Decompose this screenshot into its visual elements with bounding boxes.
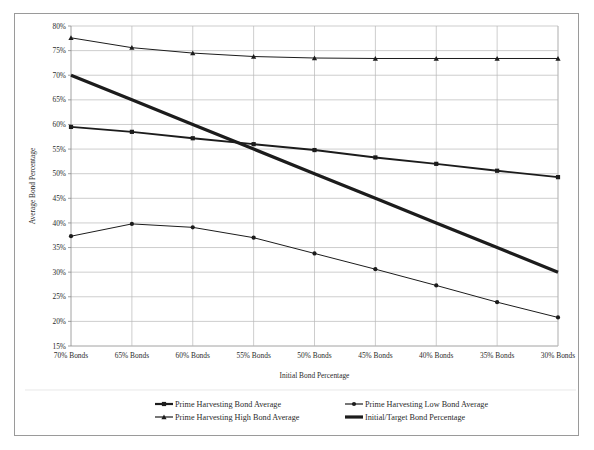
y-axis-tick-label: 20% xyxy=(52,317,66,326)
x-axis-tick-label: 55% Bonds xyxy=(236,351,270,360)
x-axis-tick-label: 60% Bonds xyxy=(176,351,210,360)
data-point-marker xyxy=(191,136,195,140)
legend-label: Initial/Target Bond Percentage xyxy=(365,413,466,422)
x-axis-tick-label: 70% Bonds xyxy=(54,351,88,360)
y-axis-tick-label: 65% xyxy=(52,95,66,104)
data-point-marker xyxy=(191,225,195,229)
legend-marker-icon xyxy=(352,402,356,406)
y-axis-title: Average Bond Percentage xyxy=(28,147,37,224)
data-point-marker xyxy=(69,125,73,129)
y-axis-tick-label: 25% xyxy=(52,292,66,301)
data-point-marker xyxy=(556,315,560,319)
line-chart: 80%75%70%65%60%55%50%45%40%35%30%25%20%1… xyxy=(15,14,580,437)
data-point-marker xyxy=(69,234,73,238)
data-point-marker xyxy=(373,267,377,271)
y-axis-tick-label: 80% xyxy=(52,22,66,31)
data-point-marker xyxy=(312,251,316,255)
y-axis-tick-label: 70% xyxy=(52,71,66,80)
plot-area: 80%75%70%65%60%55%50%45%40%35%30%25%20%1… xyxy=(15,14,580,437)
y-axis-tick-label: 45% xyxy=(52,194,66,203)
data-point-marker xyxy=(434,283,438,287)
legend-item: Initial/Target Bond Percentage xyxy=(345,413,466,422)
y-axis-tick-label: 50% xyxy=(52,169,66,178)
x-axis-tick-label: 40% Bonds xyxy=(419,351,453,360)
legend-item: Prime Harvesting High Bond Average xyxy=(155,413,300,422)
data-point-marker xyxy=(312,148,316,152)
data-point-marker xyxy=(252,236,256,240)
y-axis-tick-label: 35% xyxy=(52,243,66,252)
data-point-marker xyxy=(556,175,560,179)
data-point-marker xyxy=(495,169,499,173)
x-axis-tick-label: 35% Bonds xyxy=(480,351,514,360)
x-axis-tick-label: 65% Bonds xyxy=(115,351,149,360)
data-point-marker xyxy=(252,142,256,146)
x-axis-tick-label: 30% Bonds xyxy=(541,351,575,360)
x-axis-tick-label: 45% Bonds xyxy=(358,351,392,360)
y-axis-tick-label: 60% xyxy=(52,120,66,129)
data-point-marker xyxy=(373,155,377,159)
legend-item: Prime Harvesting Bond Average xyxy=(155,400,281,409)
legend-label: Prime Harvesting Bond Average xyxy=(175,400,281,409)
y-axis-tick-label: 30% xyxy=(52,268,66,277)
y-axis-tick-label: 40% xyxy=(52,219,66,228)
legend-label: Prime Harvesting Low Bond Average xyxy=(365,400,488,409)
data-point-marker xyxy=(495,300,499,304)
y-axis-tick-label: 15% xyxy=(52,342,66,351)
legend-label: Prime Harvesting High Bond Average xyxy=(175,413,300,422)
chart-container: 80%75%70%65%60%55%50%45%40%35%30%25%20%1… xyxy=(14,13,579,436)
legend-item: Prime Harvesting Low Bond Average xyxy=(345,400,488,409)
y-axis-tick-label: 75% xyxy=(52,46,66,55)
y-axis-tick-label: 55% xyxy=(52,145,66,154)
data-point-marker xyxy=(130,222,134,226)
data-point-marker xyxy=(434,162,438,166)
data-point-marker xyxy=(130,130,134,134)
x-axis-title: Initial Bond Percentage xyxy=(280,371,350,380)
legend-marker-icon xyxy=(162,402,166,406)
x-axis-tick-label: 50% Bonds xyxy=(297,351,331,360)
